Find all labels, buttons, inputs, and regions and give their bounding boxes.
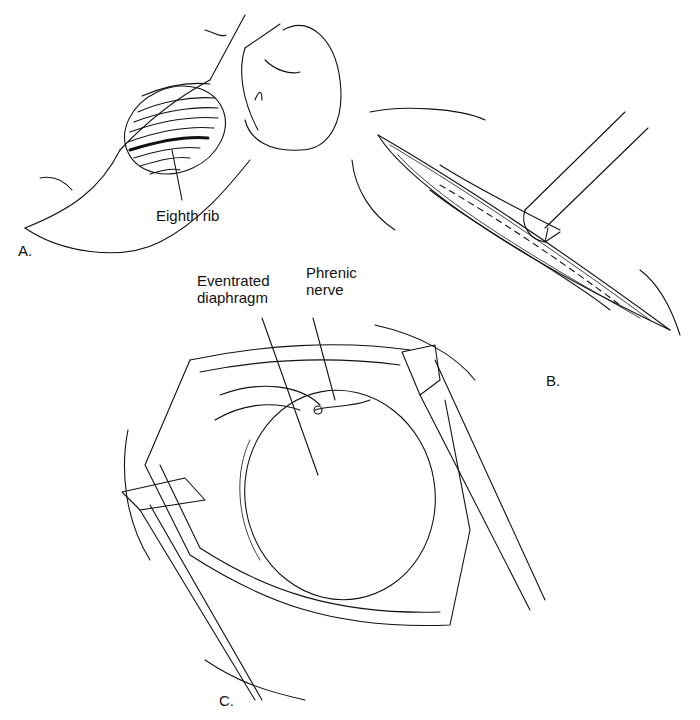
- label-eventrated-line2: diaphragm: [197, 289, 268, 306]
- label-phrenic-line1: Phrenic: [306, 264, 357, 281]
- panel-b-drawing: [352, 108, 680, 335]
- panel-letter-a: A.: [18, 242, 32, 259]
- label-eventrated-line1: Eventrated: [197, 272, 270, 289]
- panel-c-drawing: [122, 318, 545, 700]
- label-eighth-rib: Eighth rib: [156, 207, 219, 224]
- surgical-illustration: [0, 0, 700, 720]
- panel-letter-c: C.: [219, 692, 234, 709]
- label-phrenic-line2: nerve: [306, 281, 344, 298]
- panel-letter-b: B.: [546, 372, 560, 389]
